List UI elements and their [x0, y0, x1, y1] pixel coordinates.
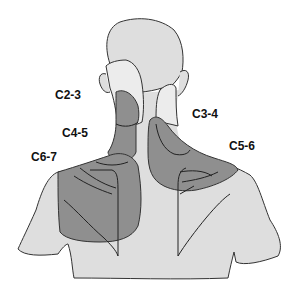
label-c3-4: C3-4	[192, 108, 218, 120]
region-c6-7-shaded	[58, 154, 141, 242]
label-c2-3: C2-3	[55, 89, 81, 101]
referred-pain-diagram: C2-3 C3-4 C4-5 C5-6 C6-7	[0, 0, 294, 294]
torso-outline	[18, 158, 280, 279]
label-c5-6: C5-6	[229, 140, 255, 152]
label-c4-5: C4-5	[62, 127, 88, 139]
label-c6-7: C6-7	[31, 151, 57, 163]
